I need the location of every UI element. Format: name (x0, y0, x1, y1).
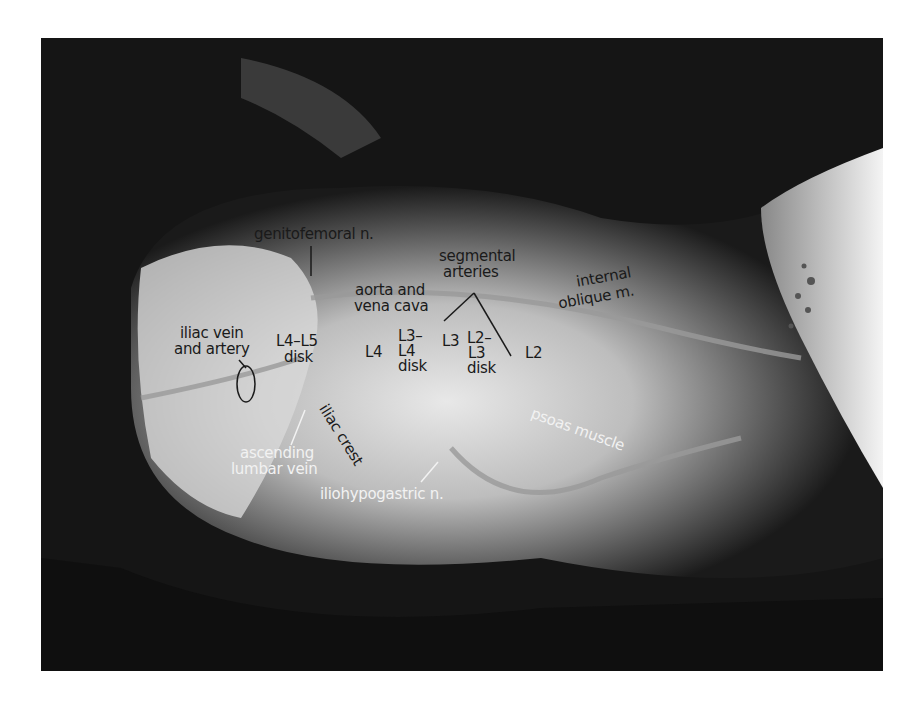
label-genitofemoral-nerve: genitofemoral n. (254, 227, 374, 242)
label-iliac-vein-artery-2: and artery (174, 342, 250, 357)
label-aorta-vena-cava-2: vena cava (354, 299, 428, 314)
label-l3: L3 (442, 334, 459, 349)
label-l3-l4-disk-3: disk (398, 359, 427, 374)
label-ascending-lumbar-vein-2: lumbar vein (231, 462, 317, 477)
label-l4-l5-disk-1: L4–L5 (276, 334, 318, 349)
label-iliohypogastric-nerve: iliohypogastric n. (320, 487, 443, 502)
label-ascending-lumbar-vein-1: ascending (240, 446, 314, 461)
label-iliac-vein-artery-1: iliac vein (180, 326, 244, 341)
label-aorta-vena-cava-1: aorta and (355, 283, 425, 298)
surgical-photo: genitofemoral n. segmental arteries inte… (41, 38, 883, 671)
label-l2-l3-disk-3: disk (467, 361, 496, 376)
label-l2: L2 (525, 346, 542, 361)
label-segmental-arteries-2: arteries (443, 265, 498, 280)
label-l4-l5-disk-2: disk (284, 350, 313, 365)
label-l4: L4 (365, 345, 382, 360)
photo-background (41, 38, 883, 671)
label-segmental-arteries-1: segmental (439, 249, 515, 264)
